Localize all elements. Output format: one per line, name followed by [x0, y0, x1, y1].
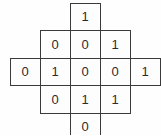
grid-cell-r4c3: 1: [70, 85, 101, 114]
grid-cell-empty: [130, 113, 161, 136]
grid-cell-r4c2: 0: [40, 85, 71, 114]
grid-cell-r2c2: 0: [40, 30, 71, 59]
grid-cell-r3c5: 1: [130, 58, 161, 87]
grid-cell-r3c3: 0: [70, 58, 101, 87]
grid-cell-empty: [130, 85, 161, 114]
grid-cell-empty: [10, 85, 41, 114]
grid-cell-empty: [100, 3, 131, 32]
grid-cell-empty: [10, 3, 41, 32]
grid-cell-empty: [40, 113, 71, 136]
grid-cell-r5c3: 0: [70, 113, 101, 136]
grid-cell-empty: [130, 30, 161, 59]
grid-cell-r4c4: 1: [100, 85, 131, 114]
grid-cell-empty: [10, 30, 41, 59]
diamond-grid: 1 0 0 1 0 1 0 0 1 0 1 1 0: [10, 3, 160, 135]
grid-cell-r3c2: 1: [40, 58, 71, 87]
grid-cell-r1c3: 1: [70, 3, 101, 32]
grid-cell-r3c1: 0: [10, 58, 41, 87]
grid-cell-r3c4: 0: [100, 58, 131, 87]
grid-cell-empty: [40, 3, 71, 32]
grid-cell-empty: [10, 113, 41, 136]
grid-cell-r2c4: 1: [100, 30, 131, 59]
grid-cell-empty: [100, 113, 131, 136]
grid-cell-empty: [130, 3, 161, 32]
grid-cell-r2c3: 0: [70, 30, 101, 59]
binary-diamond-figure: 1 0 0 1 0 1 0 0 1 0 1 1 0: [0, 0, 161, 135]
